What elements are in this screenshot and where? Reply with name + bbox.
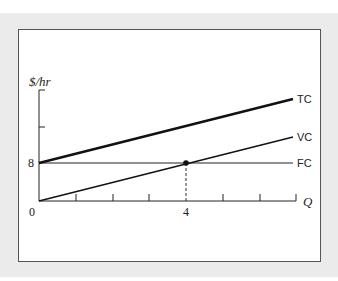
intersection-point: [183, 160, 189, 166]
y-tick-label-8: 8: [28, 156, 34, 170]
fc-label: FC: [297, 157, 312, 169]
vc-label: VC: [297, 131, 312, 143]
vc-line: [39, 137, 293, 201]
tc-label: TC: [297, 93, 312, 105]
tc-line: [39, 99, 293, 163]
cost-chart: $/hr TC VC FC 8 0 4 Q: [0, 0, 338, 281]
y-axis-label: $/hr: [29, 74, 52, 89]
x-tick-label-4: 4: [183, 205, 189, 219]
origin-label: 0: [29, 205, 35, 219]
x-axis-label: Q: [303, 194, 313, 209]
